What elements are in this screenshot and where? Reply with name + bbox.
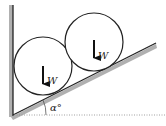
weight-label-right: W — [98, 50, 109, 61]
angle-label: α° — [50, 102, 62, 113]
weight-label-left: W — [47, 75, 58, 86]
physics-diagram: W W α° — [0, 0, 166, 126]
